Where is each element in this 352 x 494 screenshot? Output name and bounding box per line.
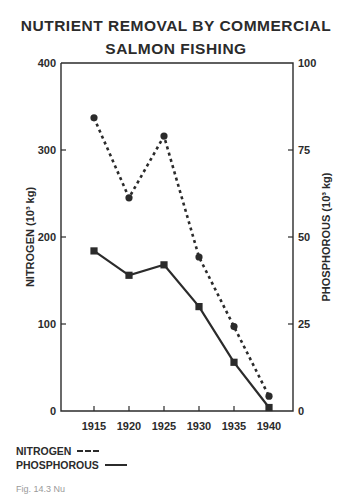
circle-marker-icon (230, 323, 237, 330)
square-marker-icon (265, 404, 272, 411)
square-marker-icon (230, 359, 237, 366)
plot-axes: 0100200300400025507510019151920192519301… (38, 57, 317, 432)
x-tick-label: 1920 (117, 420, 141, 432)
square-marker-icon (160, 261, 167, 268)
x-tick-label: 1935 (222, 420, 246, 432)
circle-marker-icon (125, 194, 132, 201)
series-line-phosphorous (94, 251, 269, 408)
circle-marker-icon (195, 253, 202, 260)
x-tick-label: 1940 (257, 420, 281, 432)
square-marker-icon (125, 272, 132, 279)
circle-marker-icon (90, 114, 97, 121)
dashed-line-swatch-icon (77, 450, 99, 452)
legend-item-phosphorous: PHOSPHOROUS (16, 459, 127, 471)
circle-marker-icon (265, 393, 272, 400)
square-marker-icon (195, 303, 202, 310)
legend-item-nitrogen: NITROGEN (16, 445, 99, 457)
right-tick-label: 100 (298, 57, 316, 69)
x-tick-label: 1925 (152, 420, 176, 432)
x-tick-label: 1930 (187, 420, 211, 432)
left-axis-title: NITROGEN (10³ kg) (24, 187, 36, 288)
circle-marker-icon (160, 132, 167, 139)
right-tick-label: 0 (298, 405, 304, 417)
right-tick-label: 50 (298, 231, 310, 243)
right-tick-label: 75 (298, 144, 310, 156)
plot-series (90, 114, 272, 411)
legend-label-phosphorous: PHOSPHOROUS (16, 459, 99, 471)
left-tick-label: 300 (38, 144, 56, 156)
left-tick-label: 100 (38, 318, 56, 330)
x-tick-label: 1915 (82, 420, 106, 432)
solid-line-swatch-icon (105, 464, 127, 466)
series-line-nitrogen (94, 118, 269, 396)
left-tick-label: 400 (38, 57, 56, 69)
figure-caption: Fig. 14.3 Nu (16, 484, 65, 494)
right-axis-title: PHOSPHOROUS (10³ kg) (320, 172, 332, 301)
legend-label-nitrogen: NITROGEN (16, 445, 71, 457)
right-tick-label: 25 (298, 318, 310, 330)
left-tick-label: 200 (38, 231, 56, 243)
square-marker-icon (90, 247, 97, 254)
left-tick-label: 0 (50, 405, 56, 417)
